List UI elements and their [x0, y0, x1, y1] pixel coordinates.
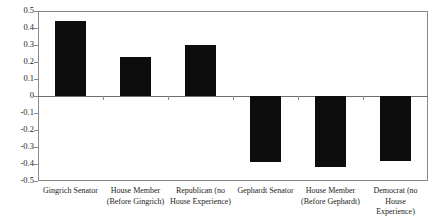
y-tick-label: 0.1 — [4, 74, 34, 83]
y-tick-label: -0.2 — [4, 125, 34, 134]
y-tick-label: 0.5 — [4, 6, 34, 15]
x-tick-label-line: (Before Gephardt) — [298, 197, 363, 208]
bar — [120, 57, 151, 96]
x-tick-mark — [233, 96, 234, 100]
x-tick-label-line: House Member — [103, 186, 168, 197]
y-tick-mark — [34, 28, 38, 29]
x-tick-label-line: Democrat (no House — [363, 186, 428, 207]
x-tick-label: Republican (noHouse Experience) — [168, 186, 233, 207]
x-tick-label: Gingrich Senator — [38, 186, 103, 197]
x-tick-label-line: Gingrich Senator — [38, 186, 103, 197]
x-tick-label-line: Experience) — [363, 207, 428, 218]
x-tick-label-line: House Experience) — [168, 197, 233, 208]
y-tick-mark — [34, 164, 38, 165]
x-axis: Gingrich SenatorHouse Member(Before Ging… — [38, 186, 428, 219]
y-tick-mark — [34, 79, 38, 80]
x-tick-mark — [298, 96, 299, 100]
y-tick-label: 0 — [4, 91, 34, 100]
y-tick-mark — [34, 11, 38, 12]
y-tick-label: 0.4 — [4, 23, 34, 32]
y-tick-label: -0.1 — [4, 108, 34, 117]
y-tick-label: 0.2 — [4, 57, 34, 66]
x-tick-label-line: Gephardt Senator — [233, 186, 298, 197]
bar — [55, 21, 86, 96]
bar — [315, 96, 346, 167]
bar — [380, 96, 411, 161]
y-tick-mark — [34, 147, 38, 148]
bar — [185, 45, 216, 96]
x-tick-label: Democrat (no HouseExperience) — [363, 186, 428, 218]
x-tick-mark — [168, 96, 169, 100]
x-tick-mark — [363, 96, 364, 100]
y-axis: 0.50.40.30.20.10-0.1-0.2-0.3-0.4-0.5 — [0, 0, 34, 219]
y-tick-mark — [34, 45, 38, 46]
bar — [250, 96, 281, 162]
y-tick-label: -0.3 — [4, 142, 34, 151]
x-tick-label: Gephardt Senator — [233, 186, 298, 197]
y-tick-mark — [34, 96, 38, 97]
y-tick-mark — [34, 62, 38, 63]
x-tick-mark — [103, 96, 104, 100]
x-tick-label-line: (Before Gingrich) — [103, 197, 168, 208]
x-tick-label-line: Republican (no — [168, 186, 233, 197]
y-tick-mark — [34, 113, 38, 114]
bar-chart: 0.50.40.30.20.10-0.1-0.2-0.3-0.4-0.5 Gin… — [0, 0, 439, 219]
y-tick-label: 0.3 — [4, 40, 34, 49]
y-tick-mark — [34, 130, 38, 131]
x-tick-label: House Member(Before Gephardt) — [298, 186, 363, 207]
y-tick-label: -0.4 — [4, 159, 34, 168]
y-tick-mark — [34, 181, 38, 182]
x-tick-label-line: House Member — [298, 186, 363, 197]
y-tick-label: -0.5 — [4, 176, 34, 185]
x-tick-label: House Member(Before Gingrich) — [103, 186, 168, 207]
